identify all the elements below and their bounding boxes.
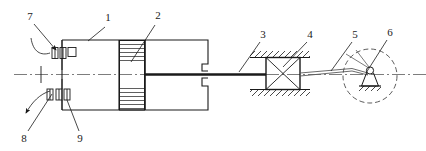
callout-label-3: 3 [260, 28, 266, 40]
mechanical-assembly-figure: 1 2 3 4 5 6 7 8 9 [0, 0, 426, 151]
callout-label-4: 4 [307, 28, 313, 40]
cross-guide-block [266, 58, 300, 90]
callout-label-5: 5 [352, 28, 358, 40]
lower-bearing-group [47, 89, 70, 110]
axis-tick-marks [41, 58, 62, 89]
hatched-hub [120, 41, 145, 111]
assembly-drawing-canvas: 1 2 3 4 5 6 7 8 9 [0, 0, 426, 151]
callout-label-2: 2 [155, 9, 161, 21]
callout-label-1: 1 [105, 11, 111, 23]
callout-label-9: 9 [77, 132, 83, 144]
callout-label-6: 6 [387, 26, 393, 38]
ground-hatching-top [250, 51, 310, 58]
callout-label-8: 8 [21, 132, 27, 144]
callout-labels: 1 2 3 4 5 6 7 8 9 [21, 9, 393, 144]
callout-label-7: 7 [27, 10, 33, 22]
ground-hatching-bottom [250, 90, 310, 97]
